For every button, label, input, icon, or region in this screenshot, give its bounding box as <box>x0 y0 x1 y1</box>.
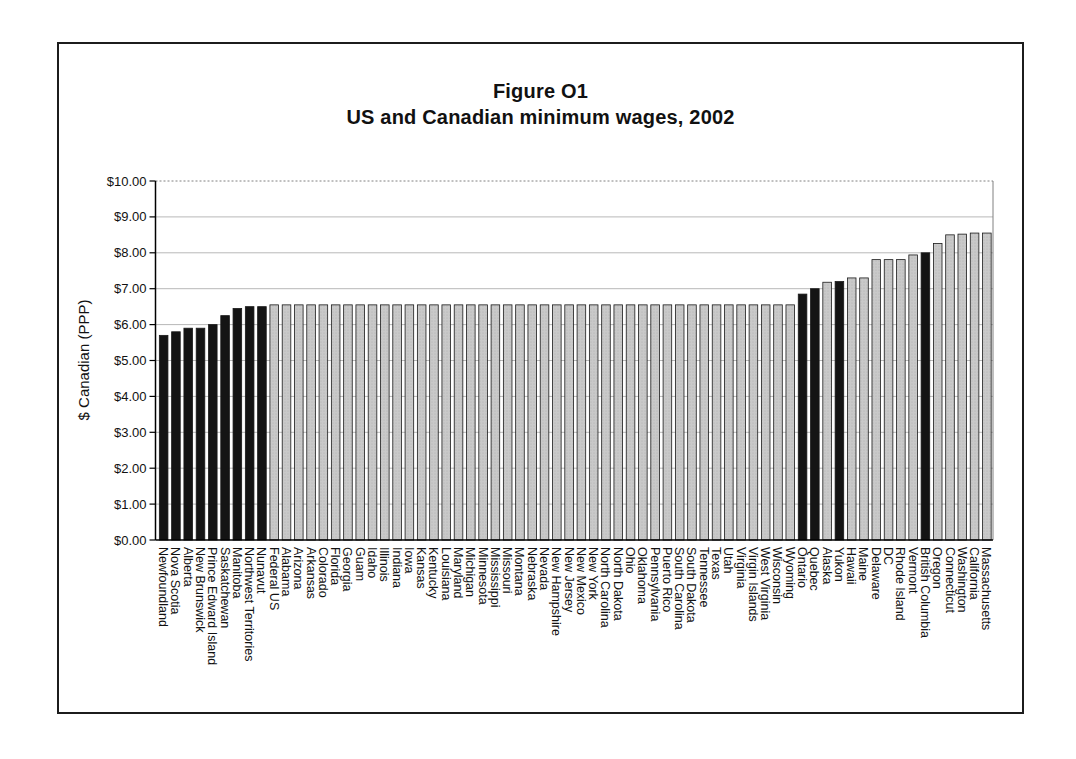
category-label-manitoba: Manitoba <box>230 547 244 598</box>
bar-pennsylvania <box>651 305 660 540</box>
bar-hawaii <box>847 278 856 540</box>
category-label-british-columbia: British Columbia <box>918 547 932 638</box>
category-label-newfoundland: Newfoundland <box>156 547 170 627</box>
category-label-minnesota: Minnesota <box>476 547 490 605</box>
y-tick-label: $10.00 <box>107 174 147 189</box>
category-label-iowa: Iowa <box>402 547 416 573</box>
category-label-new-mexico: New Mexico <box>574 547 588 615</box>
bar-wisconsin <box>774 305 783 540</box>
category-label-wyoming: Wyoming <box>783 547 797 599</box>
bar-saskatchewan <box>221 316 230 540</box>
category-label-west-virginia: West Virginia <box>758 547 772 620</box>
category-label-north-carolina: North Carolina <box>598 547 612 628</box>
category-label-utah: Utah <box>721 547 735 573</box>
category-label-arkansas: Arkansas <box>304 547 318 599</box>
bar-nebraska <box>528 305 537 540</box>
bar-virgin-islands <box>749 305 758 540</box>
category-label-prince-edward-island: Prince Edward Island <box>205 547 219 665</box>
bar-nunavut <box>258 307 267 540</box>
bar-west-virginia <box>761 305 770 540</box>
category-label-saskatchewan: Saskatchewan <box>218 547 232 628</box>
category-label-idaho: Idaho <box>365 547 379 578</box>
category-label-connecticut: Connecticut <box>943 547 957 614</box>
category-label-northwest-territories: Northwest Territories <box>242 547 256 661</box>
bar-north-carolina <box>602 305 611 540</box>
bar-alabama <box>282 305 291 540</box>
bar-dc <box>884 260 893 540</box>
bar-maine <box>860 278 869 540</box>
bar-new-mexico <box>577 305 586 540</box>
category-label-massachusetts: Massachusetts <box>979 547 993 630</box>
bar-nova-scotia <box>172 332 181 540</box>
bar-missouri <box>503 305 512 540</box>
bar-iowa <box>405 305 414 540</box>
category-label-south-dakota: South Dakota <box>684 547 698 623</box>
bar-washington <box>958 234 967 540</box>
bar-kentucky <box>430 305 439 540</box>
category-label-alabama: Alabama <box>279 547 293 596</box>
y-tick-label: $1.00 <box>114 497 147 512</box>
y-tick-label: $0.00 <box>114 533 147 548</box>
bar-guam <box>356 305 365 540</box>
bar-new-hampshire <box>553 305 562 540</box>
bar-tennessee <box>700 305 709 540</box>
category-label-dc: DC <box>881 547 895 565</box>
category-label-oregon: Oregon <box>930 547 944 589</box>
bar-connecticut <box>946 235 955 540</box>
chart-title-line2: US and Canadian minimum wages, 2002 <box>59 104 1022 130</box>
chart-title-line1: Figure O1 <box>59 78 1022 104</box>
bar-indiana <box>393 305 402 540</box>
y-axis-title: $ Canadian (PPP) <box>75 300 92 421</box>
category-label-colorado: Colorado <box>316 547 330 598</box>
bar-north-dakota <box>614 305 623 540</box>
bar-new-york <box>589 305 598 540</box>
category-label-montana: Montana <box>512 547 526 596</box>
bar-minnesota <box>479 305 488 540</box>
bar-wyoming <box>786 305 795 540</box>
bar-maryland <box>454 305 463 540</box>
y-tick-label: $8.00 <box>114 245 147 260</box>
category-label-ohio: Ohio <box>623 547 637 573</box>
bar-yukon <box>835 282 844 540</box>
category-label-maryland: Maryland <box>451 547 465 598</box>
bar-chart: $0.00$1.00$2.00$3.00$4.00$5.00$6.00$7.00… <box>59 44 1022 712</box>
bar-florida <box>331 305 340 540</box>
category-label-louisiana: Louisiana <box>439 547 453 601</box>
bar-georgia <box>344 305 353 540</box>
category-label-oklahoma: Oklahoma <box>635 547 649 604</box>
y-tick-label: $9.00 <box>114 209 147 224</box>
y-tick-label: $7.00 <box>114 281 147 296</box>
category-label-alaska: Alaska <box>820 547 834 585</box>
category-label-yukon: Yukon <box>832 547 846 582</box>
bar-oregon <box>933 243 942 540</box>
bar-british-columbia <box>921 253 930 540</box>
bar-quebec <box>811 289 820 540</box>
category-label-washington: Washington <box>955 547 969 613</box>
bar-louisiana <box>442 305 451 540</box>
y-tick-label: $4.00 <box>114 389 147 404</box>
bar-massachusetts <box>983 233 992 540</box>
category-label-ontario: Ontario <box>795 547 809 588</box>
bar-south-dakota <box>688 305 697 540</box>
bar-arizona <box>295 305 304 540</box>
bar-alaska <box>823 282 832 540</box>
category-label-nunavut: Nunavut <box>254 547 268 594</box>
bar-kansas <box>417 305 426 540</box>
bar-northwest-territories <box>245 307 254 540</box>
bar-new-jersey <box>565 305 574 540</box>
category-label-south-carolina: South Carolina <box>672 547 686 630</box>
category-label-new-brunswick: New Brunswick <box>193 547 207 633</box>
bar-mississippi <box>491 305 500 540</box>
category-label-kansas: Kansas <box>414 547 428 589</box>
bar-new-brunswick <box>196 328 205 540</box>
category-label-pennsylvania: Pennsylvania <box>648 547 662 621</box>
bar-newfoundland <box>159 335 168 540</box>
bar-alberta <box>184 328 193 540</box>
bar-ohio <box>626 305 635 540</box>
category-label-new-york: New York <box>586 547 600 601</box>
bar-california <box>970 233 979 540</box>
bar-texas <box>712 305 721 540</box>
category-label-mississippi: Mississippi <box>488 547 502 607</box>
bar-michigan <box>467 305 476 540</box>
category-label-delaware: Delaware <box>869 547 883 600</box>
